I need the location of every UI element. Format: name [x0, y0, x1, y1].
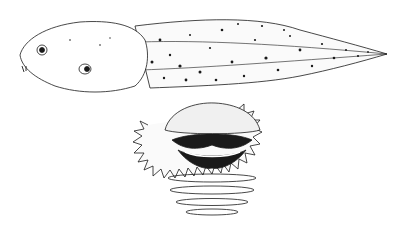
tadpole-lateral-view — [20, 20, 387, 92]
tooth-row — [168, 174, 256, 182]
upper-labium — [165, 103, 260, 134]
tooth-row — [186, 209, 238, 215]
oral-disc — [133, 103, 262, 215]
tadpole-body — [20, 22, 148, 92]
tooth-row — [176, 199, 248, 206]
tadpole-tail — [135, 20, 387, 88]
tooth-row — [170, 186, 254, 194]
tadpole-illustration — [0, 0, 399, 243]
